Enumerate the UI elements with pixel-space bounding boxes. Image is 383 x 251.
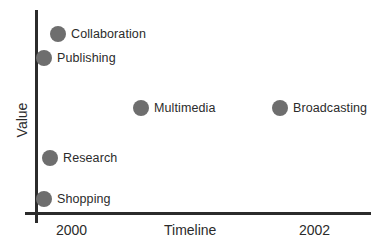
data-point-broadcasting[interactable] (272, 100, 288, 116)
data-point-publishing[interactable] (36, 50, 52, 66)
data-point-label-broadcasting: Broadcasting (293, 100, 367, 116)
data-point-label-publishing: Publishing (57, 50, 116, 66)
data-point-label-research: Research (63, 150, 117, 166)
y-axis-line (35, 10, 38, 223)
data-point-label-multimedia: Multimedia (154, 100, 215, 116)
x-axis-tick-2002: 2002 (299, 222, 330, 238)
x-axis-title: Timeline (164, 222, 216, 238)
data-point-collaboration[interactable] (50, 26, 66, 42)
scatter-chart: Collaboration Publishing Multimedia Broa… (0, 0, 383, 251)
y-axis-title: Value (14, 90, 30, 150)
x-axis-line (25, 212, 371, 215)
data-point-research[interactable] (42, 150, 58, 166)
data-point-shopping[interactable] (36, 191, 52, 207)
data-point-label-collaboration: Collaboration (71, 26, 146, 42)
data-point-label-shopping: Shopping (57, 191, 111, 207)
data-point-multimedia[interactable] (133, 100, 149, 116)
x-axis-tick-2000: 2000 (56, 222, 87, 238)
